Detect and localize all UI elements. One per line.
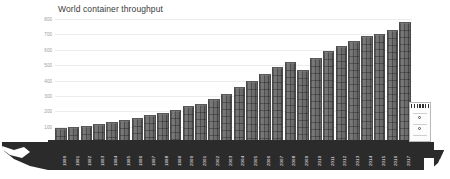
chart-title: World container throughput	[58, 4, 163, 14]
chart-canvas: World container throughput Million TEUs …	[0, 0, 450, 179]
y-tick-label: 200	[36, 109, 52, 114]
x-tick-label-2014: 2014	[369, 156, 373, 166]
bar-2014	[361, 36, 373, 142]
deck-line	[413, 135, 427, 136]
bar-2011	[323, 51, 335, 142]
x-tick-label-1991: 1991	[76, 156, 80, 166]
bar-1995	[119, 120, 131, 142]
x-tick-label-2004: 2004	[241, 156, 245, 166]
porthole-icon	[418, 116, 421, 119]
x-tick-label-2005: 2005	[254, 156, 258, 166]
x-tick-label-1992: 1992	[88, 156, 92, 166]
porthole-icon	[418, 127, 421, 130]
x-tick-label-2016: 2016	[394, 156, 398, 166]
bar-2012	[336, 46, 348, 142]
y-tick-label: 300	[36, 93, 52, 98]
y-axis-title: Million TEUs	[25, 0, 35, 14]
bar-2015	[374, 34, 386, 142]
bar-2001	[195, 104, 207, 142]
bar-1997	[144, 115, 156, 142]
bar-2008	[285, 62, 297, 142]
y-tick-label: 400	[36, 78, 52, 83]
bar-1996	[132, 118, 144, 142]
y-tick-label: 800	[36, 17, 52, 22]
bar-1991	[68, 127, 80, 142]
bar-2003	[221, 94, 233, 142]
x-tick-label-2010: 2010	[318, 156, 322, 166]
bar-1998	[157, 113, 169, 142]
bar-2007	[272, 67, 284, 142]
bar-2005	[246, 81, 258, 143]
bar-1993	[93, 124, 105, 142]
x-tick-label-2009: 2009	[305, 156, 309, 166]
deck-line	[413, 113, 427, 114]
bar-2006	[259, 74, 271, 142]
bar-1994	[106, 122, 118, 142]
x-tick-label-2007: 2007	[280, 156, 284, 166]
y-tick-label: 700	[36, 32, 52, 37]
bar-1992	[81, 126, 93, 142]
x-tick-label-2002: 2002	[216, 156, 220, 166]
bar-2013	[348, 41, 360, 142]
bar-2016	[387, 30, 399, 142]
y-tick-label: 100	[36, 124, 52, 129]
x-tick-label-2017: 2017	[407, 156, 411, 166]
bar-2010	[310, 58, 322, 142]
x-tick-label-1996: 1996	[139, 156, 143, 166]
x-tick-label-1999: 1999	[178, 156, 182, 166]
deck-line	[413, 124, 427, 125]
x-tick-label-2013: 2013	[356, 156, 360, 166]
x-tick-label-1995: 1995	[127, 156, 131, 166]
bar-2002	[208, 99, 220, 142]
bar-2000	[183, 106, 195, 142]
x-tick-label-1994: 1994	[114, 156, 118, 166]
x-tick-label-2008: 2008	[292, 156, 296, 166]
x-tick-label-2011: 2011	[331, 156, 335, 166]
bar-2004	[234, 87, 246, 142]
y-tick-label: 600	[36, 47, 52, 52]
y-tick-label: 500	[36, 63, 52, 68]
bridge-windows-icon	[411, 104, 429, 108]
x-tick-label-2001: 2001	[203, 156, 207, 166]
x-tick-label-2012: 2012	[343, 156, 347, 166]
x-tick-label-1997: 1997	[152, 156, 156, 166]
x-tick-label-1990: 1990	[63, 156, 67, 166]
x-tick-label-2006: 2006	[267, 156, 271, 166]
bar-1999	[170, 110, 182, 142]
x-tick-label-2003: 2003	[229, 156, 233, 166]
plot-area	[55, 16, 412, 142]
ship-superstructure	[409, 102, 431, 142]
x-tick-label-2015: 2015	[382, 156, 386, 166]
x-tick-label-2000: 2000	[190, 156, 194, 166]
x-tick-label-1998: 1998	[165, 156, 169, 166]
bar-2009	[297, 70, 309, 142]
bar-1990	[55, 128, 67, 142]
x-tick-label-1993: 1993	[101, 156, 105, 166]
